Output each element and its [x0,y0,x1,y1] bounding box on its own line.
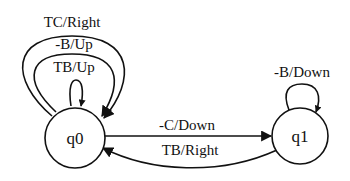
label-tb-right: TB/Right [162,142,220,158]
diagram-svg: q0 q1 TC/Right -B/Up TB/Up -C/Down TB/Ri… [0,0,350,181]
state-q1-label: q1 [292,127,309,146]
label-tc-right: TC/Right [44,14,102,30]
label-b-down: -B/Down [274,64,330,80]
label-c-down: -C/Down [159,117,215,133]
label-b-up: -B/Up [55,36,93,52]
state-diagram: q0 q1 TC/Right -B/Up TB/Up -C/Down TB/Ri… [0,0,350,181]
label-tb-up: TB/Up [53,59,95,75]
state-q0-label: q0 [67,129,84,148]
edge-q0-q0-tb-up [70,80,82,106]
